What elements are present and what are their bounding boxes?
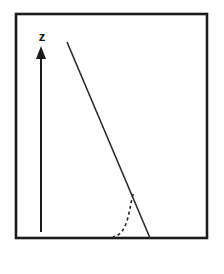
diagram-canvas: z: [0, 0, 224, 274]
z-axis-label: z: [39, 29, 46, 44]
figure-frame: [16, 14, 207, 238]
figure-container: z: [0, 0, 224, 274]
